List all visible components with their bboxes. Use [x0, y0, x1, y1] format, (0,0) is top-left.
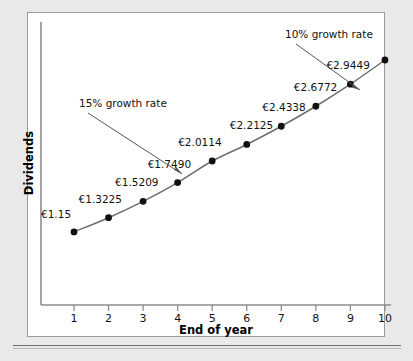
data-point-marker-year-6 [243, 141, 250, 148]
data-point-label-year-7: €2.4338 [262, 101, 305, 113]
data-point-label-year-8: €2.6772 [294, 81, 337, 93]
x-axis-title: End of year [179, 323, 253, 337]
annotation-15-percent-label: 15% growth rate [79, 97, 167, 109]
data-point-marker-year-2 [105, 214, 112, 221]
data-point-label-year-2: €1.3225 [79, 193, 122, 205]
x-tick-label-2: 2 [105, 312, 112, 325]
x-tick-label-3: 3 [140, 312, 147, 325]
data-point-label-year-3: €1.5209 [115, 176, 158, 188]
x-tick-label-1: 1 [71, 312, 78, 325]
data-point-markers [71, 57, 389, 236]
annotation-10-percent-label: 10% growth rate [285, 28, 373, 40]
data-point-label-year-6: €2.2125 [230, 119, 273, 131]
data-point-labels: €1.15€1.3225€1.5209€1.7490€2.0114€2.2125… [41, 59, 370, 220]
dividends-line-chart: 12345678910 Dividends End of year €1.15€… [0, 0, 413, 361]
data-point-marker-year-10 [382, 57, 389, 64]
x-tick-label-8: 8 [312, 312, 319, 325]
x-tick-label-9: 9 [347, 312, 354, 325]
annotation-15-percent-arrow-line [88, 113, 182, 174]
data-point-marker-year-8 [312, 103, 319, 110]
data-point-label-year-9: €2.9449 [326, 59, 369, 71]
x-tick-label-7: 7 [278, 312, 285, 325]
data-point-marker-year-1 [71, 228, 78, 235]
data-point-label-year-5: €2.0114 [178, 136, 222, 148]
y-axis-title: Dividends [22, 131, 36, 195]
x-axis-ticks [74, 305, 385, 311]
x-tick-label-10: 10 [378, 312, 392, 325]
dividends-series-line [74, 60, 385, 232]
data-point-marker-year-5 [209, 158, 216, 165]
data-point-marker-year-4 [174, 179, 181, 186]
data-point-marker-year-7 [278, 123, 285, 130]
data-point-label-year-4: €1.7490 [148, 158, 191, 170]
data-point-label-year-1: €1.15 [41, 208, 71, 220]
data-point-marker-year-3 [140, 198, 147, 205]
